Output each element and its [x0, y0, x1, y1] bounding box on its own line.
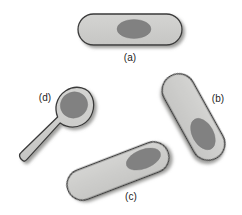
- cell-shapes-illustration: [0, 0, 242, 215]
- cell-c-body: [62, 137, 173, 204]
- cell-d-label: (d): [39, 92, 52, 103]
- cell-c: [62, 137, 173, 204]
- cell-a: [78, 14, 182, 45]
- cell-a-label: (a): [124, 52, 137, 63]
- cell-b-label: (b): [212, 93, 225, 104]
- cell-a-nucleoid: [117, 20, 151, 39]
- cell-d: [20, 87, 94, 161]
- cell-c-label: (c): [125, 191, 137, 202]
- figure-container: (a) (b) (c) (d): [0, 0, 242, 215]
